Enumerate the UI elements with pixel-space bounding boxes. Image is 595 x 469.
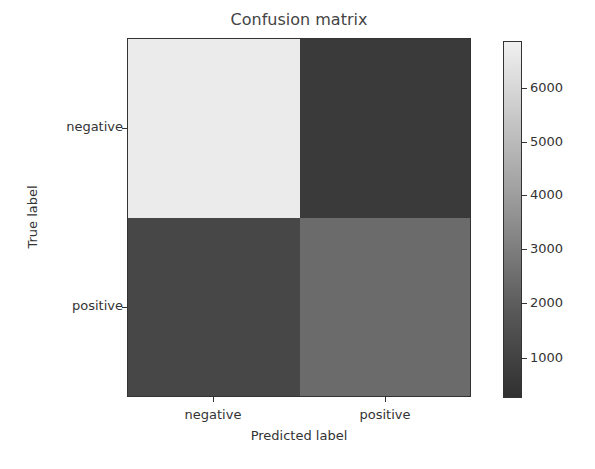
colorbar-tick-3000 — [522, 249, 527, 250]
colorbar-label-1000: 1000 — [530, 350, 563, 365]
y-tick-label-positive: positive — [72, 298, 123, 313]
x-axis-label: Predicted label — [127, 428, 471, 443]
cell-true-positive-pred-positive — [300, 218, 470, 396]
colorbar-tick-6000 — [522, 88, 527, 89]
x-tick-label-negative: negative — [163, 407, 263, 422]
colorbar-label-6000: 6000 — [530, 80, 563, 95]
colorbar-tick-5000 — [522, 142, 527, 143]
colorbar-label-2000: 2000 — [530, 295, 563, 310]
colorbar-label-5000: 5000 — [530, 134, 563, 149]
cell-true-positive-pred-negative — [128, 218, 300, 396]
x-tick-label-positive: positive — [335, 407, 435, 422]
y-axis-label: True label — [25, 185, 40, 248]
colorbar-label-4000: 4000 — [530, 187, 563, 202]
colorbar-tick-2000 — [522, 303, 527, 304]
colorbar — [503, 41, 522, 398]
colorbar-tick-4000 — [522, 195, 527, 196]
x-tick-mark-negative — [213, 397, 214, 402]
colorbar-tick-1000 — [522, 358, 527, 359]
chart-title: Confusion matrix — [127, 10, 471, 29]
colorbar-label-3000: 3000 — [530, 241, 563, 256]
y-tick-label-negative: negative — [66, 119, 123, 134]
confusion-matrix-plot — [127, 38, 471, 397]
x-tick-mark-positive — [385, 397, 386, 402]
cell-true-negative-pred-positive — [300, 39, 470, 218]
cell-true-negative-pred-negative — [128, 39, 300, 218]
